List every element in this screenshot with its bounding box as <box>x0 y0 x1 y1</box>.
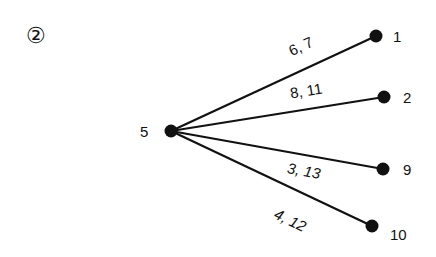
edge-label-9: 3, 13 <box>286 159 322 182</box>
node-9-label: 9 <box>403 161 411 178</box>
edge-5-1 <box>171 36 376 131</box>
edge-5-2 <box>171 97 384 131</box>
edge-label-1: 6, 7 <box>286 33 316 59</box>
node-10-dot <box>366 220 379 233</box>
root-node-label: 5 <box>140 123 148 140</box>
edge-5-10 <box>171 131 372 226</box>
node-10-label: 10 <box>390 226 407 243</box>
figure-marker: ② <box>26 23 46 48</box>
node-9-dot <box>377 163 390 176</box>
node-1-label: 1 <box>393 28 401 45</box>
root-node-dot <box>165 125 178 138</box>
edge-5-9 <box>171 131 383 169</box>
edge-label-10: 4, 12 <box>272 205 310 235</box>
edge-label-2: 8, 11 <box>289 80 324 102</box>
tree-diagram: ② 6, 78, 113, 134, 12 12910 5 <box>0 0 436 257</box>
node-2-label: 2 <box>403 89 411 106</box>
node-1-dot <box>370 30 383 43</box>
node-2-dot <box>378 91 391 104</box>
edges-group: 6, 78, 113, 134, 12 <box>171 33 384 235</box>
